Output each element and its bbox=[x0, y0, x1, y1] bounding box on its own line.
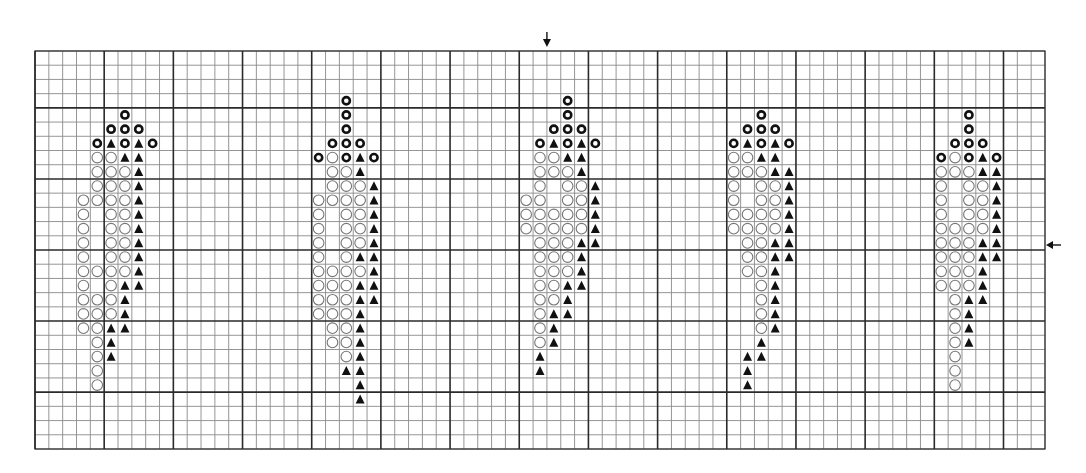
chart-background bbox=[0, 0, 1086, 473]
cross-stitch-chart bbox=[0, 0, 1086, 473]
